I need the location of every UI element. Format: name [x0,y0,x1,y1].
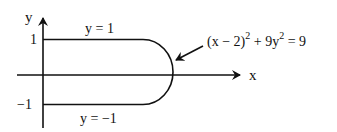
eq-part-mid: + 9y [250,34,279,49]
bottom-line-label: y = −1 [80,111,117,126]
region-boundary [43,40,173,105]
region-diagram: y x 1 −1 y = 1 y = −1 (x − 2)2 + 9y2 = 9 [0,0,337,132]
eq-part-end: = 9 [284,34,306,49]
top-line-label: y = 1 [85,21,114,36]
tick-label-neg1: −1 [17,97,32,112]
eq-part-base: (x − 2) [207,34,246,50]
y-axis-label: y [25,9,33,25]
ellipse-pointer-arrow [176,46,203,60]
x-axis-label: x [249,67,257,83]
tick-label-1: 1 [30,32,37,47]
ellipse-equation-label: (x − 2)2 + 9y2 = 9 [207,30,306,50]
